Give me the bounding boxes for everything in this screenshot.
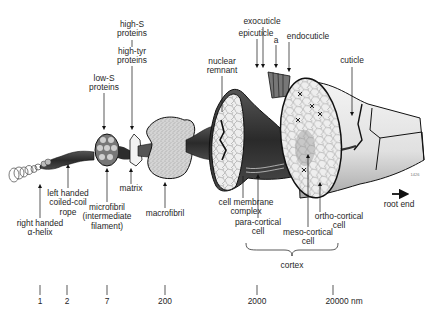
macrofibril-shape: [147, 117, 216, 179]
coiled-coil-shape: [40, 151, 94, 169]
scale-tick-20000: 20000 nm: [325, 296, 362, 306]
scale-tick-200: 200: [158, 296, 172, 306]
label-low-s-proteins: low-S proteins: [89, 74, 119, 93]
microfibril-shape: [95, 134, 134, 166]
hair-structure-diagram: high-S proteins high-tyr proteins low-S …: [0, 0, 447, 321]
label-microfibril: microfibril (intermediate filament): [83, 203, 132, 231]
label-ortho-cortical-cell: ortho-cortical cell: [315, 212, 363, 231]
label-meso-cortical-cell: meso-cortical cell: [283, 228, 333, 247]
scale-tick-7: 7: [105, 296, 110, 306]
label-endocuticle: endocuticle: [287, 32, 329, 41]
label-line: proteins: [117, 29, 147, 38]
label-line: cell: [235, 227, 281, 236]
label-line: filament): [83, 222, 132, 231]
label-line: proteins: [117, 56, 147, 65]
label-cortex: cortex: [281, 261, 304, 270]
label-matrix: matrix: [120, 184, 143, 193]
label-line: α-helix: [17, 228, 64, 237]
label-a-layer: a: [274, 36, 279, 45]
label-epicuticle: epicuticle: [239, 29, 274, 38]
label-line: cell: [283, 237, 333, 246]
label-cell-membrane-complex: cell membrane complex: [219, 198, 274, 217]
figure-code: 1426: [411, 170, 420, 179]
label-root-end: root end: [384, 200, 415, 209]
label-exocuticle: exocuticle: [243, 17, 280, 26]
label-para-cortical-cell: para-cortical cell: [235, 218, 281, 237]
label-cuticle: cuticle: [340, 56, 364, 65]
label-line: remnant: [207, 66, 238, 75]
scale-tick-2: 2: [65, 296, 70, 306]
scale-tick-2000: 2000: [248, 296, 267, 306]
diagram-artwork: [0, 0, 447, 321]
label-high-s-proteins: high-S proteins: [117, 20, 147, 39]
label-alpha-helix: right handed α-helix: [17, 219, 64, 238]
alpha-helix-shape: [9, 164, 41, 182]
label-high-tyr-proteins: high-tyr proteins: [117, 47, 147, 66]
label-macrofibril: macrofibril: [146, 209, 185, 218]
label-line: cell: [315, 221, 363, 230]
scale-tick-1: 1: [38, 296, 43, 306]
label-nuclear-remnant: nuclear remnant: [207, 57, 238, 76]
label-line: complex: [219, 207, 274, 216]
label-line: proteins: [89, 83, 119, 92]
